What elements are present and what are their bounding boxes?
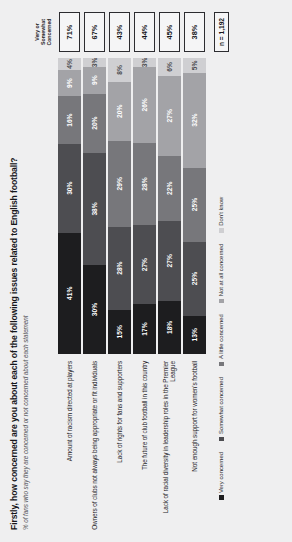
chart-row: Amount of racism directed at players41%3… bbox=[57, 12, 82, 530]
bar-segment: 9% bbox=[83, 67, 106, 94]
chart-slide: Firstly, how concerned are you about eac… bbox=[0, 0, 292, 542]
stacked-bar: 18%27%22%27%6% bbox=[158, 58, 181, 354]
chart-row-label: Owners of clubs not always being appropr… bbox=[91, 354, 98, 530]
base-note: n = 1,192 bbox=[214, 12, 229, 52]
bar-segment: 9% bbox=[58, 70, 81, 97]
bar-segment: 30% bbox=[83, 265, 106, 354]
bar-segment: 32% bbox=[183, 73, 206, 168]
bar-segment: 26% bbox=[133, 67, 156, 143]
chart-header-row: Very or Somewhat Concerned bbox=[36, 12, 53, 530]
legend-item[interactable]: Don't know bbox=[218, 197, 224, 233]
stacked-bar: 30%38%20%9%3% bbox=[83, 58, 106, 354]
legend-label: Not at all concerned bbox=[218, 244, 224, 296]
chart-legend: Very concernedSomewhat concernedA little… bbox=[218, 58, 224, 530]
bar-segment: 4% bbox=[58, 58, 81, 70]
chart-footer: Very concernedSomewhat concernedA little… bbox=[214, 12, 229, 530]
bar-segment: 41% bbox=[58, 233, 81, 354]
bar-segment: 18% bbox=[158, 301, 181, 354]
summary-value-box: 67% bbox=[84, 12, 105, 52]
summary-value-box: 38% bbox=[184, 12, 205, 52]
legend-swatch-icon bbox=[219, 437, 224, 442]
chart-rows: Amount of racism directed at players41%3… bbox=[57, 12, 207, 530]
chart-row-label: Not enough support for women's football bbox=[191, 354, 198, 530]
bar-segment: 3% bbox=[83, 58, 106, 67]
summary-value-box: 71% bbox=[59, 12, 80, 52]
bar-segment: 30% bbox=[58, 144, 81, 233]
bar-segment: 25% bbox=[183, 242, 206, 316]
bar-segment: 27% bbox=[158, 76, 181, 156]
stacked-bar: 41%30%16%9%4% bbox=[58, 58, 81, 354]
chart-row-label: Lack of racial diversity in leadership r… bbox=[162, 354, 176, 530]
bar-segment: 27% bbox=[158, 221, 181, 301]
bar-segment: 25% bbox=[183, 168, 206, 242]
chart-row-label: The future of club football in this coun… bbox=[141, 354, 148, 530]
chart-row: Owners of clubs not always being appropr… bbox=[82, 12, 107, 530]
bar-segment: 17% bbox=[133, 304, 156, 354]
chart-row: The future of club football in this coun… bbox=[132, 12, 157, 530]
stacked-bar: 15%28%29%20%8% bbox=[108, 58, 131, 354]
bar-segment: 15% bbox=[108, 310, 131, 354]
bar-segment: 3% bbox=[133, 58, 156, 67]
summary-column-header: Very or Somewhat Concerned bbox=[35, 12, 52, 52]
bar-segment: 28% bbox=[133, 143, 156, 225]
bar-segment: 28% bbox=[108, 227, 131, 310]
legend-item[interactable]: A little concerned bbox=[218, 314, 224, 366]
legend-swatch-icon bbox=[219, 362, 224, 367]
summary-value-box: 43% bbox=[109, 12, 130, 52]
chart-row-label: Amount of racism directed at players bbox=[66, 354, 73, 530]
chart-subtitle: % of fans who say they are concerned or … bbox=[22, 12, 29, 530]
bar-segment: 22% bbox=[158, 156, 181, 221]
bar-segment: 38% bbox=[83, 153, 106, 265]
bar-segment: 8% bbox=[108, 58, 131, 82]
bar-segment: 27% bbox=[133, 225, 156, 304]
bar-segment: 20% bbox=[108, 82, 131, 141]
legend-item[interactable]: Very concerned bbox=[218, 452, 224, 500]
chart-title: Firstly, how concerned are you about eac… bbox=[10, 12, 20, 530]
legend-item[interactable]: Somewhat concerned bbox=[218, 377, 224, 441]
bar-segment: 13% bbox=[183, 316, 206, 354]
bar-segment: 16% bbox=[58, 96, 81, 143]
bar-segment: 5% bbox=[183, 58, 206, 73]
stacked-bar: 13%25%25%32%5% bbox=[183, 58, 206, 354]
chart-plot-area: Very or Somewhat Concerned Amount of rac… bbox=[36, 12, 207, 530]
chart-row-label: Lack of rights for fans and supporters bbox=[116, 354, 123, 530]
stacked-bar: 17%27%28%26%3% bbox=[133, 58, 156, 354]
chart-row: Lack of racial diversity in leadership r… bbox=[157, 12, 182, 530]
summary-value-box: 44% bbox=[134, 12, 155, 52]
legend-swatch-icon bbox=[219, 299, 224, 304]
legend-swatch-icon bbox=[219, 496, 224, 501]
legend-label: Don't know bbox=[218, 197, 224, 226]
chart-row: Lack of rights for fans and supporters15… bbox=[107, 12, 132, 530]
legend-label: Somewhat concerned bbox=[218, 377, 224, 434]
legend-item[interactable]: Not at all concerned bbox=[218, 244, 224, 303]
legend-label: A little concerned bbox=[218, 314, 224, 359]
legend-label: Very concerned bbox=[218, 452, 224, 493]
summary-value-box: 45% bbox=[159, 12, 180, 52]
legend-swatch-icon bbox=[219, 228, 224, 233]
bar-segment: 20% bbox=[83, 94, 106, 153]
bar-segment: 29% bbox=[108, 141, 131, 227]
chart-row: Not enough support for women's football1… bbox=[182, 12, 207, 530]
bar-segment: 6% bbox=[158, 58, 181, 76]
